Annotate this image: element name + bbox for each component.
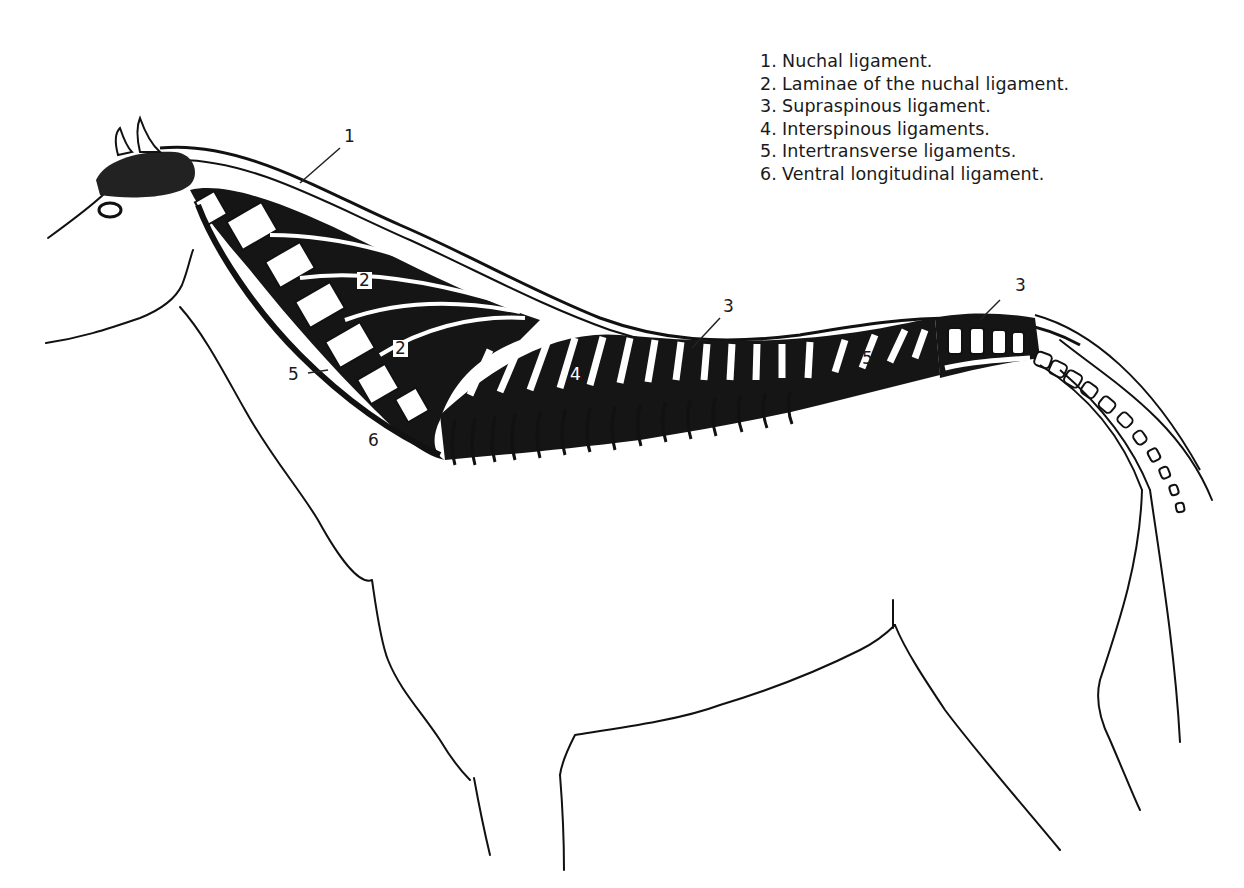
legend-item-6: 6.Ventral longitudinal ligament. [760, 163, 1069, 186]
label-laminae-upper: 2 [357, 272, 372, 289]
legend-item-2: 2.Laminae of the nuchal ligament. [760, 73, 1069, 96]
legend-item-4: 4.Interspinous ligaments. [760, 118, 1069, 141]
label-supraspinous-back: 3 [723, 298, 734, 315]
label-interspinous: 4 [570, 366, 581, 383]
legend-item-1: 1.Nuchal ligament. [760, 50, 1069, 73]
legend-item-3: 3.Supraspinous ligament. [760, 95, 1069, 118]
label-supraspinous-sacrum: 3 [1015, 277, 1026, 294]
horse-outline [46, 192, 1212, 870]
label-ventral-longitudinal: 6 [368, 432, 379, 449]
label-intertransverse-lumbar: 5 [862, 350, 873, 367]
legend-item-5: 5.Intertransverse ligaments. [760, 140, 1069, 163]
label-laminae-lower: 2 [393, 340, 408, 357]
label-nuchal-ligament: 1 [344, 128, 355, 145]
label-intertransverse-neck: 5 [288, 366, 299, 383]
legend: 1.Nuchal ligament. 2.Laminae of the nuch… [760, 50, 1069, 185]
